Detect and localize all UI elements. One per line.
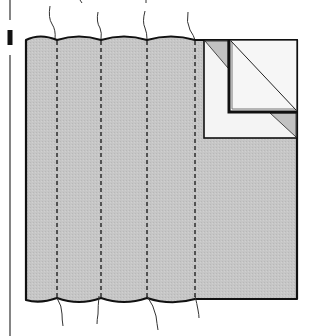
threads-top — [49, 0, 195, 40]
thread-fragment-icon — [80, 0, 82, 3]
thread-icon — [57, 298, 63, 326]
margin-rule — [8, 0, 13, 336]
mitered-corner — [204, 40, 297, 138]
corner-inner-fold — [229, 40, 297, 112]
thread-icon — [144, 11, 148, 39]
sewing-illustration — [0, 0, 309, 336]
thread-icon — [49, 6, 55, 39]
thread-icon — [187, 12, 195, 40]
curtain-panel-diagram — [0, 0, 309, 336]
margin-marker — [8, 30, 13, 45]
thread-icon — [97, 12, 101, 39]
